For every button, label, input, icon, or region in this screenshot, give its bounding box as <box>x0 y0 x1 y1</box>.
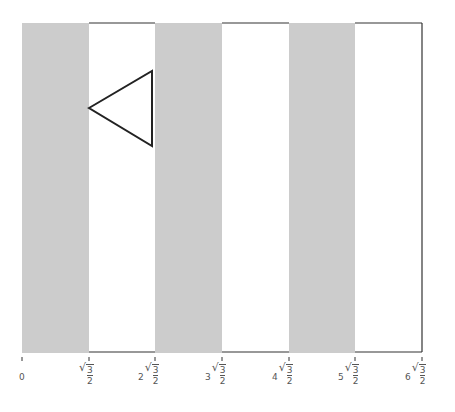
sqrt-icon: √ <box>345 363 352 373</box>
shaded-stripe-2 <box>155 23 222 353</box>
sqrt-icon: √ <box>279 363 286 373</box>
tick-label-5: 5 √ 32 <box>338 364 359 386</box>
tick-label-6: 6 √ 32 <box>405 364 426 386</box>
tick-label-2: 2 √ 32 <box>138 364 159 386</box>
shaded-stripe-3 <box>289 23 355 353</box>
shaded-stripe-1 <box>22 23 89 353</box>
diagram-canvas <box>0 0 455 412</box>
tick-label-0: 0 <box>19 364 26 382</box>
tick-label-1: √ 32 <box>78 364 94 386</box>
triangle-shape <box>89 71 152 146</box>
sqrt-icon: √ <box>412 363 419 373</box>
sqrt-icon: √ <box>79 363 86 373</box>
sqrt-icon: √ <box>212 363 219 373</box>
tick-label-3: 3 √ 32 <box>205 364 226 386</box>
sqrt-icon: √ <box>145 363 152 373</box>
tick-label-4: 4 √ 32 <box>272 364 293 386</box>
